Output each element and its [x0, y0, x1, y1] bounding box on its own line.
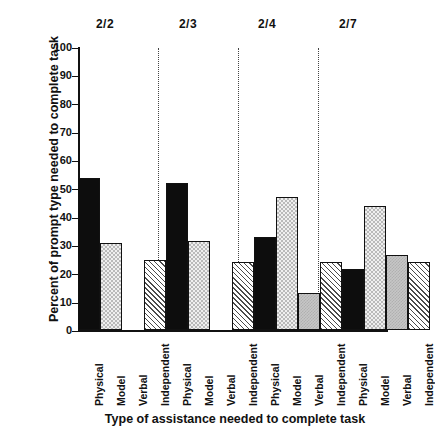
x-tick-label-6: Verbal [225, 374, 237, 406]
bar-2-2-physical [78, 178, 100, 330]
x-axis-line [78, 330, 388, 332]
bar-2-3-model [188, 241, 210, 330]
x-axis-title: Type of assistance needed to complete ta… [60, 412, 410, 426]
bar-2-4-independent [320, 262, 342, 330]
y-tick-label-10: 10 [46, 296, 72, 308]
bar-2-7-verbal [386, 255, 408, 330]
x-tick-label-12: Physical [357, 363, 369, 406]
x-tick-label-1: Model [115, 376, 127, 406]
group-label-2: 2/4 [237, 17, 297, 31]
x-tick-label-11: Independent [335, 344, 347, 406]
bar-2-4-verbal [298, 293, 320, 330]
x-tick-label-9: Model [291, 376, 303, 406]
bar-2-7-independent [408, 262, 430, 330]
group-label-1: 2/3 [158, 17, 218, 31]
y-tick-label-70: 70 [46, 126, 72, 138]
y-tick-label-20: 20 [46, 268, 72, 280]
x-tick-label-3: Independent [159, 344, 171, 406]
bar-2-3-physical [166, 183, 188, 330]
y-tick-label-100: 100 [46, 41, 72, 53]
x-tick-label-8: Physical [269, 363, 281, 406]
x-tick-label-14: Verbal [401, 374, 413, 406]
x-tick-label-7: Independent [247, 344, 259, 406]
bar-2-4-physical [254, 237, 276, 330]
group-label-0: 2/2 [75, 17, 135, 31]
y-tick-label-40: 40 [46, 211, 72, 223]
bar-2-4-model [276, 197, 298, 330]
x-tick-label-10: Verbal [313, 374, 325, 406]
y-tick-label-30: 30 [46, 239, 72, 251]
y-tick-label-80: 80 [46, 98, 72, 110]
x-tick-label-4: Physical [181, 363, 193, 406]
y-axis-tick-labels: 100 90 80 70 60 50 40 30 20 10 0 [40, 0, 72, 440]
bar-2-7-model [364, 206, 386, 330]
group-label-3: 2/7 [318, 17, 378, 31]
x-tick-label-13: Model [379, 376, 391, 406]
y-tick-label-50: 50 [46, 183, 72, 195]
x-tick-label-2: Verbal [137, 374, 149, 406]
bar-2-7-physical [342, 269, 364, 330]
bar-2-2-model [100, 243, 122, 330]
x-tick-label-5: Model [203, 376, 215, 406]
y-tick-label-0: 0 [46, 324, 72, 336]
x-axis-tick-labels: Physical Model Verbal Independent Physic… [78, 334, 388, 410]
y-tick-label-90: 90 [46, 69, 72, 81]
plot-area [78, 48, 388, 330]
bar-2-2-independent [144, 260, 166, 331]
x-tick-label-0: Physical [93, 363, 105, 406]
y-tick-label-60: 60 [46, 154, 72, 166]
x-tick-label-15: Independent [423, 344, 435, 406]
bar-2-3-independent [232, 262, 254, 330]
